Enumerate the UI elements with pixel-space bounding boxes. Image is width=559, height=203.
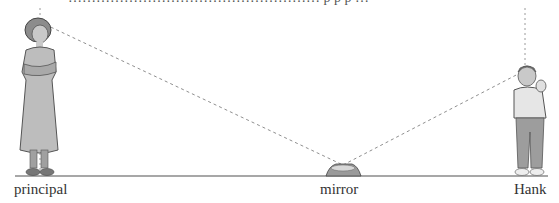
principal-figure (20, 18, 58, 176)
hank-label: Hank (514, 181, 547, 198)
mirror-to-hank-sightline (343, 72, 522, 165)
hank-figure (514, 66, 546, 176)
mirror-similar-triangles-diagram: ……………………………………………… p p p … (0, 0, 559, 203)
diagram-canvas (0, 0, 559, 203)
principal-to-mirror-sightline (40, 22, 343, 165)
mirror-label: mirror (320, 181, 358, 198)
principal-label: principal (14, 181, 67, 198)
mirror-object (326, 164, 361, 176)
